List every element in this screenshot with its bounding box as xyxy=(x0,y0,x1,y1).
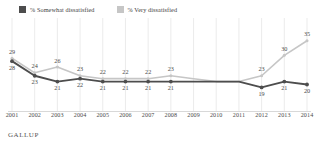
x-axis-tick-label: 2007 xyxy=(142,112,155,118)
chart-canvas: 2924262322222223233035 28232122212121211… xyxy=(0,18,319,112)
data-label: 22 xyxy=(145,68,151,75)
data-point xyxy=(169,80,173,84)
data-point xyxy=(146,80,150,84)
x-axis-tick-label: 2005 xyxy=(96,112,109,118)
chart-legend: % Somewhat dissatisfied % Very dissatisf… xyxy=(0,0,319,18)
x-axis-tick-label: 2013 xyxy=(278,112,291,118)
data-label: 22 xyxy=(77,81,83,88)
legend-entry-somewhat-dissatisfied: % Somewhat dissatisfied xyxy=(19,6,95,13)
legend-swatch-icon xyxy=(19,6,26,13)
x-axis-tick-label: 2011 xyxy=(233,112,245,118)
data-point xyxy=(169,74,172,77)
data-label: 21 xyxy=(145,84,151,91)
data-label: 23 xyxy=(168,65,174,72)
legend-entry-very-dissatisfied: % Very dissatisfied xyxy=(117,6,178,13)
data-point xyxy=(56,66,59,69)
data-label: 22 xyxy=(100,68,106,75)
data-label: 28 xyxy=(9,64,15,71)
x-axis-tick-label: 2006 xyxy=(119,112,132,118)
data-label: 19 xyxy=(259,90,265,97)
data-label: 26 xyxy=(54,57,60,64)
legend-label: % Somewhat dissatisfied xyxy=(30,6,95,13)
data-label: 20 xyxy=(304,87,310,94)
data-point xyxy=(55,80,59,84)
data-point xyxy=(282,80,286,84)
data-label: 21 xyxy=(168,84,174,91)
data-point xyxy=(283,54,286,57)
data-point xyxy=(260,86,264,90)
data-label: 23 xyxy=(259,65,265,72)
x-axis-tick-label: 2004 xyxy=(74,112,87,118)
data-label: 30 xyxy=(281,45,287,52)
data-label: 21 xyxy=(100,84,106,91)
data-label: 23 xyxy=(77,65,83,72)
x-axis-tick-label: 2008 xyxy=(165,112,178,118)
data-label: 21 xyxy=(281,84,287,91)
data-label: 24 xyxy=(32,62,38,69)
x-axis-tick-label: 2010 xyxy=(210,112,223,118)
data-label: 21 xyxy=(122,84,128,91)
data-label: 29 xyxy=(9,48,15,55)
source-attribution: GALLUP xyxy=(8,131,39,139)
x-axis-tick-label: 2001 xyxy=(6,112,19,118)
x-axis-tick-labels: 2001200220032004200520062007200820092010… xyxy=(0,112,319,126)
x-axis-tick-label: 2014 xyxy=(301,112,314,118)
data-label: 35 xyxy=(304,30,310,37)
x-axis-tick-label: 2009 xyxy=(187,112,200,118)
data-label: 22 xyxy=(122,68,128,75)
data-label: 21 xyxy=(54,84,60,91)
legend-label: % Very dissatisfied xyxy=(128,6,178,13)
x-axis-tick-label: 2002 xyxy=(28,112,41,118)
data-point xyxy=(78,77,82,81)
x-axis-tick-label: 2012 xyxy=(255,112,268,118)
data-point xyxy=(33,74,37,78)
x-axis-tick-label: 2003 xyxy=(51,112,64,118)
data-point xyxy=(124,80,128,84)
data-label: 23 xyxy=(32,78,38,85)
data-point xyxy=(101,80,105,84)
data-point xyxy=(305,83,309,87)
line-chart-plot-area: 2924262322222223233035 28232122212121211… xyxy=(0,18,319,112)
data-point xyxy=(10,59,14,63)
data-point xyxy=(306,39,309,42)
legend-swatch-icon xyxy=(117,6,124,13)
data-point xyxy=(260,74,263,77)
